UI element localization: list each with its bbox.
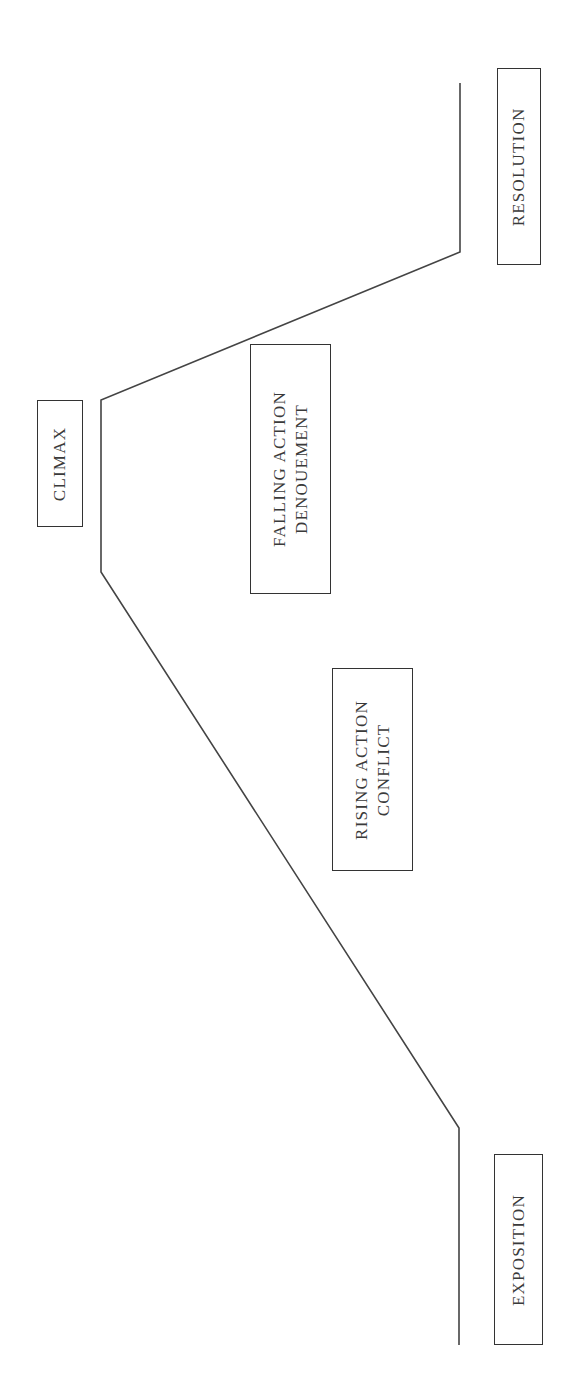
exposition-box: EXPOSITION	[494, 1154, 543, 1345]
exposition-label: EXPOSITION	[508, 1193, 530, 1305]
conflict-label: CONFLICT	[373, 700, 395, 840]
falling-action-label: FALLING ACTION	[269, 391, 291, 547]
resolution-box: RESOLUTION	[497, 68, 541, 265]
climax-box: CLIMAX	[37, 400, 83, 527]
denouement-label: DENOUEMENT	[291, 391, 313, 547]
rising-action-label: RISING ACTION	[351, 700, 373, 840]
plot-line	[0, 0, 580, 1393]
falling-action-box: FALLING ACTION DENOUEMENT	[250, 344, 331, 594]
resolution-label: RESOLUTION	[508, 107, 530, 226]
rising-action-box: RISING ACTION CONFLICT	[332, 668, 413, 871]
plot-diagram: EXPOSITION RISING ACTION CONFLICT CLIMAX…	[0, 0, 580, 1393]
climax-label: CLIMAX	[49, 426, 71, 500]
